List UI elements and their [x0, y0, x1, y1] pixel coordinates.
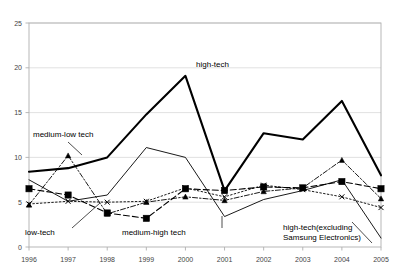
y-tick-label: 5: [18, 199, 22, 206]
chart-canvas: 0510152025 19961997199819992000200120022…: [0, 0, 396, 278]
x-tick-label: 2002: [256, 256, 272, 263]
series-annotation-label: high-tech: [196, 60, 229, 69]
y-tick-label: 15: [14, 109, 22, 116]
x-tick-label: 2001: [217, 256, 233, 263]
series-annotation-label: medium-low tech: [33, 130, 93, 139]
x-tick-label: 2005: [373, 256, 389, 263]
y-tick-label: 25: [14, 20, 22, 27]
x-tick-label: 1996: [21, 256, 37, 263]
data-point-marker: [65, 192, 71, 198]
series-annotation-label: medium-high tech: [122, 228, 186, 237]
y-tick-label: 10: [14, 154, 22, 161]
data-point-marker: [26, 186, 32, 192]
y-tick-label: 20: [14, 64, 22, 71]
data-point-marker: [143, 215, 149, 221]
series-annotation-label: Samsung Electronics): [283, 233, 361, 242]
x-tick-label: 1999: [139, 256, 155, 263]
data-point-marker: [339, 178, 345, 184]
data-point-marker: [221, 187, 227, 193]
x-tick-label: 1997: [60, 256, 76, 263]
data-point-marker: [378, 186, 384, 192]
x-tick-label: 2004: [334, 256, 350, 263]
x-tick-label: 2003: [295, 256, 311, 263]
line-chart: 0510152025 19961997199819992000200120022…: [0, 0, 396, 278]
series-annotation-label: low-tech: [25, 228, 55, 237]
y-tick-label: 0: [18, 244, 22, 251]
series-annotation-label: high-tech(excluding: [283, 223, 352, 232]
x-tick-label: 1998: [99, 256, 115, 263]
x-tick-label: 2000: [178, 256, 194, 263]
